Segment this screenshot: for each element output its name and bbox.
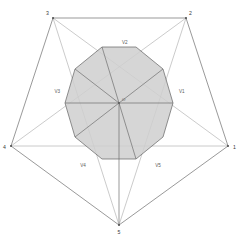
vertex-dot-3 [52, 17, 54, 19]
vertex-label-4: 4 [3, 144, 6, 150]
inner-label-v5: V5 [155, 163, 161, 168]
inner-label-v1: V1 [179, 89, 185, 94]
vertex-dot-2 [185, 17, 187, 19]
vertex-label-3: 3 [46, 10, 49, 16]
inner-label-v3: V3 [54, 89, 60, 94]
vertex-dot-4 [10, 145, 12, 147]
figure-canvas: 1 2 3 4 5 V1 V2 V3 V4 V5 O [0, 0, 240, 242]
vertex-label-1: 1 [233, 144, 236, 150]
vertex-dot-1 [227, 145, 229, 147]
vertex-label-5: 5 [118, 229, 121, 235]
inner-label-v4: V4 [80, 163, 86, 168]
inner-label-v2: V2 [122, 40, 128, 45]
vertex-label-2: 2 [189, 10, 192, 16]
vertex-dot-5 [118, 224, 120, 226]
center-label-o: O [122, 97, 126, 102]
geometry-figure: 1 2 3 4 5 V1 V2 V3 V4 V5 O [0, 0, 240, 242]
center-point [118, 102, 120, 104]
